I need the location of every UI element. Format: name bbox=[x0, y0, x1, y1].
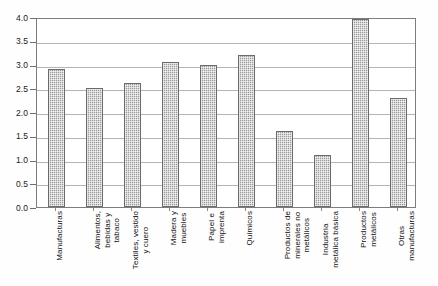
x-axis-category-label: Químicos bbox=[226, 209, 264, 286]
bar bbox=[238, 55, 255, 207]
x-axis-category-label: Papel eimprenta bbox=[188, 209, 226, 286]
x-axis-category-line: Productos bbox=[359, 211, 369, 248]
plot-area bbox=[36, 18, 416, 208]
x-axis-category-line: bebidas y bbox=[103, 211, 113, 249]
x-axis-category-line: Productos de bbox=[283, 211, 293, 259]
x-axis: ManufacturasAlimentos,bebidas ytabacoTex… bbox=[36, 209, 416, 286]
x-axis-category-label: Textiles, vestidoy cuero bbox=[112, 209, 150, 286]
x-axis-category-label: Industriametálica básica bbox=[302, 209, 340, 286]
x-axis-category-line: Manufacturas bbox=[55, 211, 65, 261]
x-axis-category-line: Industria bbox=[321, 211, 331, 268]
bar bbox=[352, 19, 369, 207]
bars-group bbox=[37, 19, 415, 207]
x-axis-category-line: Madera y bbox=[169, 211, 179, 245]
x-axis-category-label: Manufacturas bbox=[36, 209, 74, 286]
x-axis-category-label: Alimentos,bebidas ytabaco bbox=[74, 209, 112, 286]
y-tick-label: 1.0 bbox=[16, 156, 28, 165]
x-axis-category-line: Químicos bbox=[245, 211, 255, 246]
y-tick-label: 0.0 bbox=[16, 204, 28, 213]
y-tick-label: 4.0 bbox=[16, 14, 28, 23]
x-axis-category-line: Alimentos, bbox=[93, 211, 103, 249]
y-axis: 0.00.51.01.52.02.53.03.54.0 bbox=[0, 0, 33, 286]
x-axis-category-line: Otras bbox=[397, 211, 407, 261]
bar bbox=[124, 83, 141, 207]
x-axis-category-label: Madera ymuebles bbox=[150, 209, 188, 286]
x-axis-category-line: y cuero bbox=[141, 211, 151, 269]
bar bbox=[48, 69, 65, 207]
y-tick-label: 3.0 bbox=[16, 61, 28, 70]
x-axis-category-line: metálicos bbox=[369, 211, 379, 248]
bar bbox=[314, 155, 331, 207]
x-axis-category-line: imprenta bbox=[217, 211, 227, 243]
y-tick-label: 2.0 bbox=[16, 109, 28, 118]
x-axis-category-line: muebles bbox=[179, 211, 189, 245]
x-axis-category-line: manufacturas bbox=[407, 211, 417, 261]
bar-chart: 0.00.51.01.52.02.53.03.54.0 Manufacturas… bbox=[0, 0, 438, 286]
bar bbox=[162, 62, 179, 207]
x-axis-category-label: Productos deminerales nometálicos bbox=[264, 209, 302, 286]
bar bbox=[390, 98, 407, 207]
x-axis-category-line: Papel e bbox=[207, 211, 217, 243]
x-axis-category-line: Textiles, vestido bbox=[131, 211, 141, 269]
y-tick-label: 1.5 bbox=[16, 132, 28, 141]
bar bbox=[276, 131, 293, 207]
x-axis-category-line: minerales no bbox=[293, 211, 303, 259]
y-tick-label: 3.5 bbox=[16, 37, 28, 46]
x-axis-category-line: metálica básica bbox=[331, 211, 341, 268]
x-axis-category-label: Otrasmanufacturas bbox=[378, 209, 416, 286]
y-tick-label: 0.5 bbox=[16, 180, 28, 189]
bar bbox=[200, 65, 217, 208]
bar bbox=[86, 88, 103, 207]
x-axis-category-label: Productosmetálicos bbox=[340, 209, 378, 286]
y-tick-label: 2.5 bbox=[16, 85, 28, 94]
